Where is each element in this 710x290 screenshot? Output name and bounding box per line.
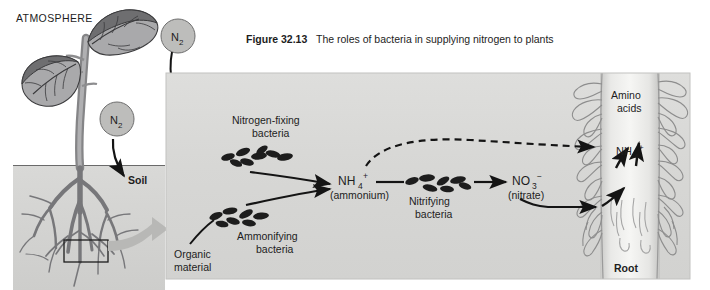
organic-material-line2: material	[174, 261, 211, 273]
nitrogen-cycle-figure: Figure 32.13 The roles of bacteria in su…	[0, 0, 710, 290]
nitrate-superscript: −	[537, 171, 542, 181]
soil-label: Soil	[128, 174, 147, 186]
nitrogen-fixing-label-line1: Nitrogen-fixing	[232, 114, 300, 126]
ammonium-name: (ammonium)	[330, 189, 389, 201]
root-ammonium-formula: NH	[616, 145, 632, 157]
nitrate-formula: NO	[512, 174, 530, 188]
figure-caption: The roles of bacteria in supplying nitro…	[316, 33, 554, 45]
root-label: Root	[614, 262, 638, 274]
ammonifying-label-line1: Ammonifying	[237, 230, 298, 242]
root-ammonium-subscript: 4	[634, 152, 639, 161]
amino-acids-line2: acids	[617, 102, 642, 114]
n2-lower-label: N	[110, 114, 118, 126]
nitrifying-label-line1: Nitrifying	[409, 195, 450, 207]
nitrifying-label-line2: bacteria	[415, 208, 453, 220]
n2-bubble-upper: N 2	[161, 19, 195, 53]
organic-material-line1: Organic	[174, 248, 211, 260]
figure-root: Figure 32.13 The roles of bacteria in su…	[0, 0, 710, 290]
amino-acids-line1: Amino	[611, 89, 641, 101]
ammonifying-label-line2: bacteria	[256, 243, 294, 255]
nitrogen-fixing-label-line2: bacteria	[252, 127, 290, 139]
figure-number: Figure 32.13	[246, 33, 307, 45]
root-ammonium-superscript: +	[639, 143, 644, 152]
n2-bubble-lower: N 2	[100, 102, 134, 136]
n2-upper-subscript: 2	[179, 38, 184, 47]
ammonium-superscript: +	[363, 171, 368, 181]
n2-lower-subscript: 2	[118, 121, 123, 130]
n2-upper-label: N	[171, 31, 179, 43]
ammonium-formula: NH	[338, 174, 355, 188]
nitrate-name: (nitrate)	[508, 189, 544, 201]
atmosphere-label: ATMOSPHERE	[16, 12, 93, 24]
